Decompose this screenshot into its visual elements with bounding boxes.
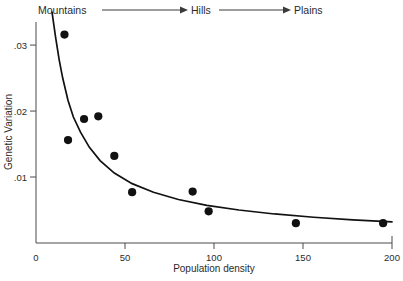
x-tick-label-50: 50 [120,252,131,263]
x-tick-label-100: 100 [206,252,222,263]
data-points-group [60,30,387,227]
gradient-arrow-head-2 [283,7,291,14]
y-tick-label-.01: .01 [14,172,27,183]
data-point [60,30,68,38]
fitted-curve [52,12,392,222]
data-point [189,187,197,195]
gradient-annotation: Mountains Hills Plains [38,4,323,16]
gradient-label-mountains: Mountains [38,4,86,16]
axis-lines [36,22,392,243]
gradient-label-plains: Plains [294,4,323,16]
gradient-arrow-head-1 [180,7,188,14]
x-axis-ticks [125,243,392,249]
x-axis-tick-labels: 050100150200 [33,252,400,263]
data-point [292,219,300,227]
data-point [64,136,72,144]
data-point [379,219,387,227]
figure-container: Mountains Hills Plains 050100150200 .01.… [0,0,403,281]
data-point [80,115,88,123]
data-point [205,207,213,215]
y-tick-label-.03: .03 [14,40,27,51]
x-tick-label-0: 0 [33,252,38,263]
data-point [94,112,102,120]
axes-group [36,22,392,243]
x-tick-label-150: 150 [295,252,311,263]
y-axis-ticks [30,45,36,177]
y-axis-tick-labels: .01.02.03 [14,40,27,183]
y-axis-title: Genetic Variation [3,94,14,170]
gradient-label-hills: Hills [191,4,211,16]
y-tick-label-.02: .02 [14,106,27,117]
x-tick-label-200: 200 [384,252,400,263]
data-point [110,152,118,160]
x-axis-title: Population density [173,263,255,274]
data-point [128,188,136,196]
scatter-chart: Mountains Hills Plains 050100150200 .01.… [0,0,403,281]
